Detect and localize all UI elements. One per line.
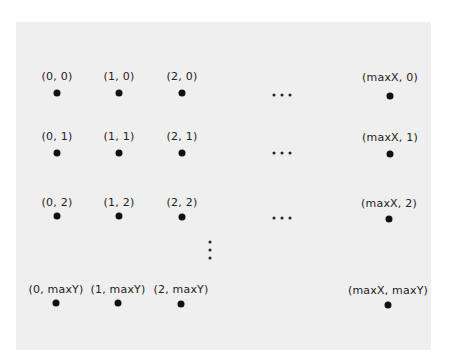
horizontal-ellipsis-icon <box>273 152 276 155</box>
point-label: (1, 2) <box>104 197 135 209</box>
point-label: (0, 1) <box>42 131 73 143</box>
vertical-ellipsis-icon <box>209 249 212 252</box>
point-label: (maxX, 2) <box>361 198 417 210</box>
point-dot <box>178 301 185 308</box>
horizontal-ellipsis-icon <box>281 217 284 220</box>
point-label: (2, 2) <box>167 197 198 209</box>
point-dot <box>53 300 60 307</box>
point-label: (0, 0) <box>42 71 73 83</box>
vertical-ellipsis-icon <box>209 241 212 244</box>
point-label: (1, 1) <box>104 131 135 143</box>
horizontal-ellipsis-icon <box>273 217 276 220</box>
point-label: (0, 2) <box>42 197 73 209</box>
point-label: (maxX, maxY) <box>348 285 428 297</box>
point-dot <box>179 150 186 157</box>
point-dot <box>387 151 394 158</box>
point-dot <box>386 216 393 223</box>
point-label: (1, 0) <box>104 71 135 83</box>
vertical-ellipsis-icon <box>209 257 212 260</box>
point-dot <box>179 214 186 221</box>
point-dot <box>54 90 61 97</box>
point-label: (2, 1) <box>167 131 198 143</box>
point-dot <box>116 213 123 220</box>
horizontal-ellipsis-icon <box>273 94 276 97</box>
point-dot <box>115 300 122 307</box>
horizontal-ellipsis-icon <box>289 94 292 97</box>
point-label: (1, maxY) <box>90 284 145 296</box>
horizontal-ellipsis-icon <box>289 217 292 220</box>
point-dot <box>116 150 123 157</box>
point-label: (0, maxY) <box>28 284 83 296</box>
point-dot <box>116 90 123 97</box>
point-dot <box>54 150 61 157</box>
horizontal-ellipsis-icon <box>281 152 284 155</box>
point-label: (maxX, 1) <box>362 132 418 144</box>
point-label: (2, 0) <box>167 71 198 83</box>
point-dot <box>385 302 392 309</box>
horizontal-ellipsis-icon <box>289 152 292 155</box>
point-dot <box>387 93 394 100</box>
horizontal-ellipsis-icon <box>281 94 284 97</box>
point-label: (maxX, 0) <box>362 72 418 84</box>
point-label: (2, maxY) <box>153 284 208 296</box>
point-dot <box>54 213 61 220</box>
point-dot <box>179 90 186 97</box>
